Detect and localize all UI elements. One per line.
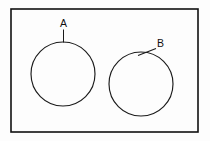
label-a: A [60,17,67,29]
label-b: B [157,37,164,49]
figure-container: A B [0,0,210,141]
diagram-canvas: A B [0,0,210,141]
